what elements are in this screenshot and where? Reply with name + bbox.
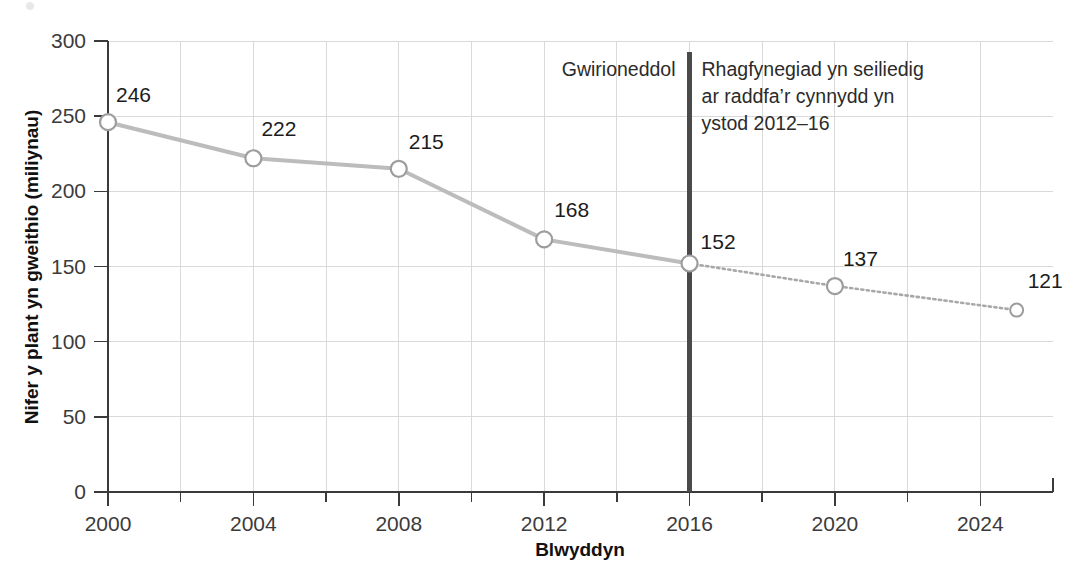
chart-background	[0, 0, 1072, 582]
y-axis-title: Nifer y plant yn gweithio (miliynau)	[21, 110, 42, 425]
y-tick-label: 200	[51, 179, 86, 202]
y-tick-label: 300	[51, 29, 86, 52]
scan-artifact	[26, 2, 34, 10]
x-tick-label: 2016	[666, 512, 713, 535]
x-tick-label: 2008	[375, 512, 422, 535]
annotation-forecast-line: Rhagfynegiad yn seiliedig	[702, 58, 924, 80]
x-tick-label: 2004	[230, 512, 277, 535]
data-point-label: 152	[701, 230, 736, 253]
annotation-forecast-line: ar raddfa’r cynnydd yn	[702, 85, 895, 107]
data-point-label: 222	[261, 117, 296, 140]
chart-container: 050100150200250300 200020042008201220162…	[0, 0, 1072, 582]
x-tick-label: 2000	[85, 512, 132, 535]
data-point-label: 246	[116, 83, 151, 106]
data-point-label: 137	[843, 247, 878, 270]
x-tick-label: 2012	[521, 512, 568, 535]
y-tick-label: 0	[74, 480, 86, 503]
x-tick-label: 2020	[812, 512, 859, 535]
data-point-marker	[536, 231, 552, 247]
data-point-marker	[245, 150, 261, 166]
y-tick-label: 250	[51, 104, 86, 127]
y-tick-label: 150	[51, 255, 86, 278]
data-point-marker	[100, 114, 116, 130]
data-point-label: 215	[409, 130, 444, 153]
y-tick-label: 100	[51, 330, 86, 353]
annotation-forecast-line: ystod 2012–16	[702, 112, 830, 134]
y-tick-label: 50	[63, 405, 86, 428]
data-point-marker	[682, 255, 698, 271]
data-point-marker	[1010, 304, 1023, 317]
x-tick-label: 2024	[957, 512, 1004, 535]
data-point-label: 168	[554, 198, 589, 221]
annotation-actual: Gwirioneddol	[562, 58, 676, 80]
data-point-label: 121	[1028, 269, 1063, 292]
x-axis-title: Blwyddyn	[535, 539, 625, 560]
data-point-marker	[391, 161, 407, 177]
line-chart: 050100150200250300 200020042008201220162…	[0, 0, 1072, 582]
data-point-marker	[827, 278, 843, 294]
